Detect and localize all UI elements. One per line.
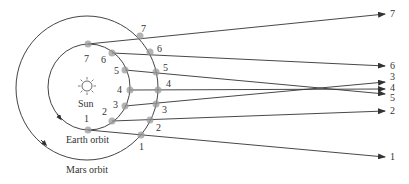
- mars-position-5: [153, 69, 160, 76]
- apparent-position-label: 7: [390, 8, 395, 19]
- mars-position-label: 7: [141, 23, 146, 34]
- sight-line-3: [125, 82, 385, 106]
- apparent-position-label: 6: [390, 60, 395, 71]
- earth-orbit-direction-arrow-icon: [57, 114, 60, 118]
- sight-line-7: [88, 14, 385, 44]
- earth-position-4: [127, 87, 134, 94]
- sun-icon: [78, 77, 96, 95]
- earth-position-label: 4: [117, 84, 122, 95]
- diagram-canvas: 112233445566771234567 Sun Earth orbit Ma…: [0, 0, 409, 184]
- apparent-position-label: 2: [390, 105, 395, 116]
- sight-lines: [88, 14, 385, 157]
- mars-position-1: [138, 132, 145, 139]
- earth-position-label: 7: [84, 53, 89, 64]
- earth-position-2: [109, 118, 116, 125]
- mars-orbit-label: Mars orbit: [66, 164, 108, 175]
- mars-position-label: 3: [162, 104, 167, 115]
- sight-line-5: [125, 70, 385, 94]
- mars-position-4: [155, 87, 162, 94]
- mars-position-3: [153, 101, 160, 108]
- apparent-position-label: 5: [390, 92, 395, 103]
- earth-position-label: 3: [113, 99, 118, 110]
- earth-position-label: 1: [84, 113, 89, 124]
- mars-position-label: 4: [166, 78, 171, 89]
- mars-position-2: [147, 117, 154, 124]
- mars-position-label: 2: [156, 122, 161, 133]
- retrograde-motion-diagram: 112233445566771234567 Sun Earth orbit Ma…: [0, 0, 409, 184]
- apparent-position-label: 1: [390, 151, 395, 162]
- sight-line-4: [130, 89, 385, 90]
- mars-position-label: 5: [163, 62, 168, 73]
- apparent-position-label: 3: [390, 71, 395, 82]
- earth-position-5: [122, 67, 129, 74]
- mars-position-label: 6: [157, 43, 162, 54]
- mars-position-label: 1: [139, 141, 144, 152]
- earth-position-7: [85, 41, 92, 48]
- earth-position-label: 6: [101, 54, 106, 65]
- earth-orbit-label: Earth orbit: [66, 134, 109, 145]
- earth-position-6: [109, 50, 116, 57]
- earth-position-1: [85, 127, 92, 134]
- earth-position-label: 2: [102, 106, 107, 117]
- earth-position-label: 5: [114, 65, 119, 76]
- mars-position-6: [147, 49, 154, 56]
- sun-label: Sun: [78, 98, 94, 109]
- earth-position-3: [122, 103, 129, 110]
